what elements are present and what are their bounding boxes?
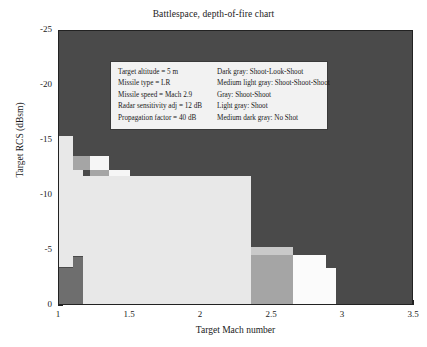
heatmap-cell <box>83 176 251 305</box>
y-tick-label: -15 <box>16 134 52 144</box>
legend-key-line: Dark gray: Shoot-Look-Shoot <box>217 67 321 78</box>
y-tick-label: -20 <box>16 79 52 89</box>
y-tick-label: -25 <box>16 24 52 34</box>
legend-parameter-line: Target altitude = 5 m <box>118 67 211 78</box>
legend-color-key-column: Dark gray: Shoot-Look-ShootMedium light … <box>217 67 321 124</box>
x-tick-label: 1.5 <box>114 309 144 319</box>
x-tick-label: 3.5 <box>398 309 427 319</box>
legend-key-line: Medium dark gray: No Shot <box>217 113 321 124</box>
x-tick-mark <box>413 300 414 305</box>
chart-figure: Battlespace, depth-of-fire chart Target … <box>0 0 427 347</box>
x-tick-label: 2.5 <box>256 309 286 319</box>
heatmap-cell <box>59 268 73 306</box>
heatmap-cell <box>90 156 108 169</box>
heatmap-cell <box>73 156 90 169</box>
y-tick-label: -10 <box>16 189 52 199</box>
y-tick-mark <box>58 305 63 306</box>
legend-parameter-line: Missile type = LR <box>118 78 211 89</box>
x-tick-label: 3 <box>327 309 357 319</box>
heatmap-cell <box>251 255 294 305</box>
legend-key-line: Light gray: Shoot <box>217 101 321 112</box>
legend-key-line: Gray: Shoot-Shoot <box>217 90 321 101</box>
heatmap-cell <box>59 136 73 157</box>
x-tick-label: 2 <box>185 309 215 319</box>
legend-parameter-line: Propagation factor = 40 dB <box>118 113 211 124</box>
legend-parameter-line: Missile speed = Mach 2.9 <box>118 90 211 101</box>
heatmap-cell <box>326 268 336 306</box>
heatmap-cell <box>251 247 294 256</box>
x-axis-label: Target Mach number <box>58 325 413 335</box>
legend-parameters-column: Target altitude = 5 mMissile type = LRMi… <box>118 67 211 124</box>
heatmap-cell <box>293 255 326 305</box>
legend-parameter-line: Radar sensitivity adj = 12 dB <box>118 101 211 112</box>
legend-box: Target altitude = 5 mMissile type = LRMi… <box>110 61 328 130</box>
x-tick-label: 1 <box>43 309 73 319</box>
heatmap-cell <box>73 257 83 306</box>
legend-key-line: Medium light gray: Shoot-Shoot-Shoot <box>217 78 321 89</box>
y-tick-label: -5 <box>16 244 52 254</box>
heatmap-cell <box>59 156 73 267</box>
chart-title: Battlespace, depth-of-fire chart <box>0 9 427 19</box>
y-tick-label: 0 <box>16 299 52 309</box>
heatmap-cell <box>73 156 83 256</box>
